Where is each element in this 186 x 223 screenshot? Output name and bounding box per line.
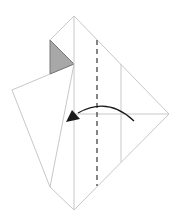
diagram-svg (0, 0, 186, 223)
edge-bottom-left (50, 187, 74, 210)
origami-diagram (0, 0, 186, 223)
edge-top-left (50, 16, 74, 40)
arrowhead-icon (66, 110, 80, 122)
left-flap (12, 64, 74, 187)
